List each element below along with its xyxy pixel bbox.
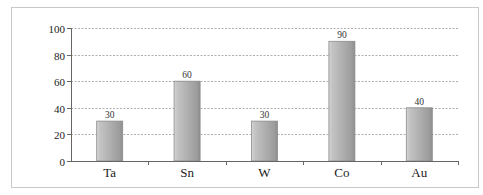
bar-sn xyxy=(174,81,200,161)
bar-chart: 020406080100 3060309040 TaSnWCoAu xyxy=(0,0,483,195)
data-label: 30 xyxy=(105,110,115,120)
bar-w xyxy=(252,121,278,161)
bar-au xyxy=(406,108,432,161)
bar-ta xyxy=(97,121,123,161)
x-axis: TaSnWCoAu xyxy=(71,161,459,180)
x-category-label: Au xyxy=(411,165,427,180)
y-tick-label: 0 xyxy=(60,156,66,168)
y-tick-label: 100 xyxy=(49,23,66,35)
bars: 3060309040 xyxy=(97,30,433,161)
y-tick-label: 20 xyxy=(54,129,66,141)
y-tick-label: 60 xyxy=(54,76,66,88)
x-category-label: Co xyxy=(334,165,349,180)
data-label: 40 xyxy=(415,97,425,107)
x-category-label: W xyxy=(258,165,271,180)
y-tick-label: 40 xyxy=(54,103,66,115)
y-tick-label: 80 xyxy=(54,50,66,62)
data-label: 30 xyxy=(260,110,270,120)
x-category-label: Ta xyxy=(103,165,116,180)
data-label: 90 xyxy=(337,30,347,40)
x-category-label: Sn xyxy=(180,165,194,180)
data-label: 60 xyxy=(182,70,192,80)
bar-co xyxy=(329,41,355,161)
y-axis: 020406080100 xyxy=(49,23,72,168)
